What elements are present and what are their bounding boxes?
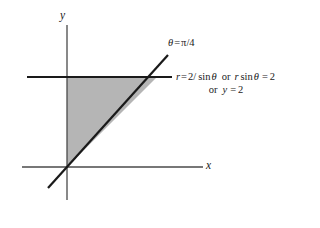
equation-theta-1: θ: [210, 71, 216, 82]
theta-value: π/4: [181, 37, 194, 48]
equation-value-2: 2: [270, 71, 275, 82]
equation-sin-2: sin: [238, 71, 252, 82]
equation-two-over: 2/: [188, 71, 196, 82]
theta-ray-label: θ=π/4: [168, 37, 195, 48]
y-axis-label: y: [60, 9, 65, 21]
equation-or-1: or: [217, 71, 235, 82]
equation-equals-1: =: [180, 71, 188, 82]
equation-or-2: or: [208, 84, 223, 95]
equation-equals-3: =: [227, 84, 238, 95]
equation-equals-2: =: [259, 71, 270, 82]
equation-value-3: 2: [238, 84, 243, 95]
figure-canvas: [0, 0, 320, 228]
equation-sin-1: sin: [196, 71, 210, 82]
equation-theta-2: θ: [253, 71, 259, 82]
line-equation-label: r=2/sinθorrsinθ=2 ory=2: [176, 70, 275, 96]
equation-line-1: r=2/sinθorrsinθ=2: [176, 70, 275, 83]
ray-theta-pi-over-4: [48, 55, 168, 188]
x-axis-label: x: [206, 159, 211, 171]
equation-line-2: ory=2: [176, 83, 275, 96]
polar-region-figure: y x θ=π/4 r=2/sinθorrsinθ=2 ory=2: [0, 0, 320, 228]
theta-equals-sign: =: [173, 37, 181, 48]
